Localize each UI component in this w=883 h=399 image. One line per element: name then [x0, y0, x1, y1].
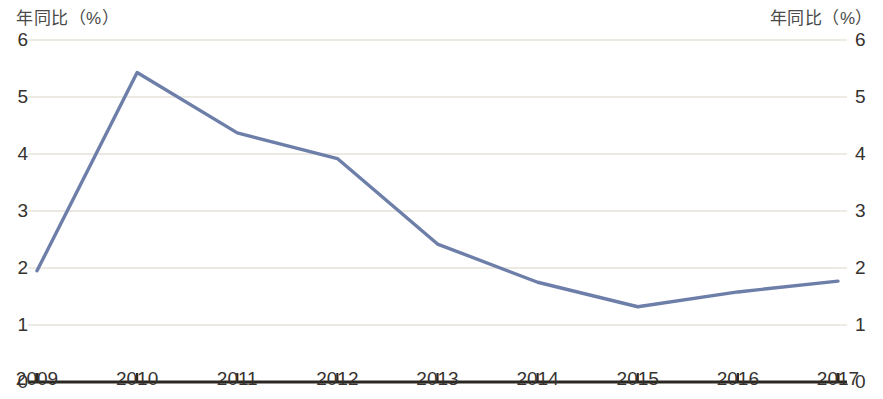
x-tick-label-2013: 2013 [416, 368, 458, 390]
left-y-tick-label: 5 [0, 86, 28, 108]
x-tick-label-2015: 2015 [617, 368, 659, 390]
left-y-axis-labels: 6543210 [0, 0, 28, 399]
right-y-tick-label: 1 [855, 314, 883, 336]
left-y-tick-label: 3 [0, 200, 28, 222]
data-series-line-0 [37, 72, 838, 306]
plot-area [0, 0, 883, 399]
x-tick-label-2009: 2009 [16, 368, 58, 390]
left-y-tick-label: 4 [0, 143, 28, 165]
right-y-tick-label: 3 [855, 200, 883, 222]
x-tick-label-2012: 2012 [316, 368, 358, 390]
left-y-tick-label: 2 [0, 257, 28, 279]
x-tick-label-2016: 2016 [717, 368, 759, 390]
x-tick-label-2010: 2010 [116, 368, 158, 390]
right-y-tick-label: 4 [855, 143, 883, 165]
right-y-tick-label: 6 [855, 29, 883, 51]
left-y-tick-label: 6 [0, 29, 28, 51]
line-chart: 年同比（%） 年同比（%） 6543210 6543210 2009201020… [0, 0, 883, 399]
x-tick-label-2017: 2017 [817, 368, 859, 390]
x-tick-label-2011: 2011 [217, 368, 258, 390]
left-y-tick-label: 1 [0, 314, 28, 336]
right-y-tick-label: 2 [855, 257, 883, 279]
x-tick-label-2014: 2014 [516, 368, 558, 390]
right-y-tick-label: 0 [855, 371, 883, 393]
right-y-tick-label: 5 [855, 86, 883, 108]
right-y-axis-labels: 6543210 [855, 0, 883, 399]
